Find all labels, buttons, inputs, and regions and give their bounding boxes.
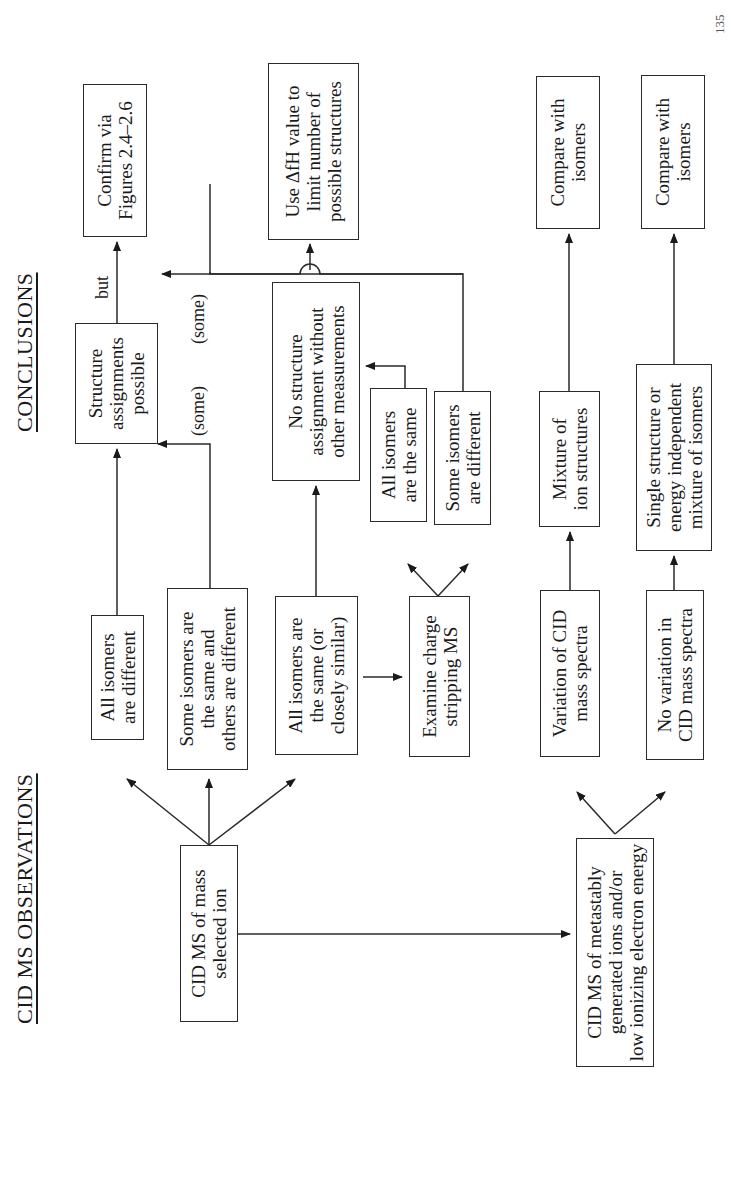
page-number: 135 bbox=[712, 15, 728, 35]
box-all-isomers-different: All isomers are different bbox=[91, 615, 144, 740]
box-text: Variation of CID mass spectra bbox=[549, 610, 591, 738]
box-text: Single structure or energy independent m… bbox=[643, 383, 706, 532]
box-text: Structure assignments possible bbox=[85, 337, 148, 430]
box-cs-all-isomers-same: All isomers are the same bbox=[370, 388, 427, 522]
label-but: but bbox=[92, 276, 113, 299]
box-text: Some isomers are different bbox=[442, 404, 484, 511]
box-compare-with-isomers-2: Compare with isomers bbox=[641, 75, 705, 229]
box-text: Some isomers are the same and others are… bbox=[176, 607, 239, 751]
box-text: Compare with isomers bbox=[547, 98, 589, 206]
box-text: CID MS of metastably generated ions and/… bbox=[584, 844, 647, 1062]
box-text: CID MS of mass selected ion bbox=[188, 869, 230, 997]
box-all-same-closely-similar: All isomers are the same (or closely sim… bbox=[275, 596, 358, 755]
heading-observations: CID MS OBSERVATIONS bbox=[12, 773, 38, 1024]
box-text: All isomers are different bbox=[97, 631, 139, 724]
box-text: Compare with isomers bbox=[652, 98, 694, 206]
box-text: All isomers are the same (or closely sim… bbox=[285, 617, 348, 735]
heading-conclusions: CONCLUSIONS bbox=[12, 272, 38, 432]
box-text: Use ΔfH value to limit number of possibl… bbox=[282, 81, 345, 222]
box-cid-metastable-ions: CID MS of metastably generated ions and/… bbox=[576, 838, 654, 1067]
box-text: No structure assignment without other me… bbox=[285, 305, 348, 457]
box-cs-some-isomers-different: Some isomers are different bbox=[434, 391, 491, 525]
box-text: No variation in CID mass spectra bbox=[654, 608, 696, 742]
box-text: Confirm via Figures 2.4–2.6 bbox=[94, 101, 136, 220]
box-cid-mass-selected-ion: CID MS of mass selected ion bbox=[180, 845, 238, 1022]
box-variation-cid-spectra: Variation of CID mass spectra bbox=[540, 590, 600, 757]
flowchart-canvas: CID MS OBSERVATIONS CONCLUSIONS CID MS o… bbox=[0, 0, 731, 1184]
box-text: Examine charge stripping MS bbox=[419, 615, 461, 738]
box-no-variation-cid-spectra: No variation in CID mass spectra bbox=[646, 590, 704, 760]
box-structure-assignments-possible: Structure assignments possible bbox=[75, 323, 158, 444]
box-single-structure-mixture: Single structure or energy independent m… bbox=[636, 364, 712, 551]
box-use-delta-h-value: Use ΔfH value to limit number of possibl… bbox=[268, 63, 359, 240]
box-examine-charge-stripping: Examine charge stripping MS bbox=[409, 596, 470, 757]
box-no-structure-assignment: No structure assignment without other me… bbox=[272, 282, 360, 481]
box-some-same-some-different: Some isomers are the same and others are… bbox=[167, 588, 248, 770]
box-text: Mixture of ion structures bbox=[549, 408, 591, 511]
box-mixture-ion-structures: Mixture of ion structures bbox=[539, 391, 600, 527]
box-confirm-via-figures: Confirm via Figures 2.4–2.6 bbox=[83, 84, 147, 237]
box-compare-with-isomers-1: Compare with isomers bbox=[536, 76, 600, 229]
label-some-2: (some) bbox=[188, 294, 209, 344]
box-text: All isomers are the same bbox=[378, 408, 420, 503]
label-some-1: (some) bbox=[188, 386, 209, 436]
